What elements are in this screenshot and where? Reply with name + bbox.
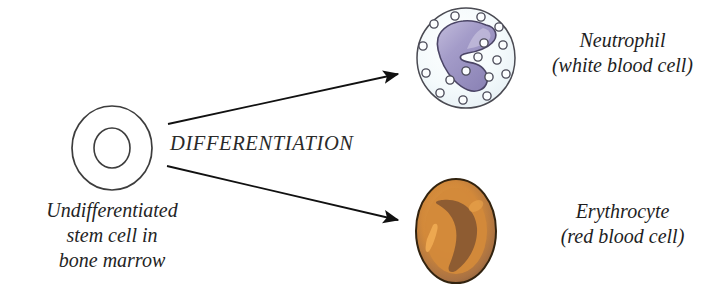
granule [477, 13, 485, 21]
granule [502, 70, 510, 78]
granule [462, 67, 470, 75]
stem-cell-nucleus [94, 128, 130, 168]
granule [499, 41, 507, 49]
granule [451, 12, 459, 20]
granule [485, 73, 493, 81]
neutrophil-label: Neutrophil (white blood cell) [520, 28, 725, 78]
granule [436, 89, 444, 97]
granule [474, 53, 482, 61]
granule [483, 92, 491, 100]
granule [446, 76, 454, 84]
granule [480, 39, 488, 47]
erythrocyte-label: Erythrocyte (red blood cell) [520, 199, 725, 249]
arrow-to-neutrophil [168, 74, 398, 124]
erythrocyte-subtitle: (red blood cell) [520, 224, 725, 249]
neutrophil-figure [417, 8, 515, 108]
neutrophil-subtitle: (white blood cell) [520, 53, 725, 78]
diagram-canvas: Undifferentiated stem cell in bone marro… [0, 0, 725, 299]
erythrocyte-figure [416, 179, 496, 283]
granule [422, 69, 430, 77]
stem-cell-caption-line-3: bone marrow [8, 248, 216, 273]
stem-cell-figure [72, 106, 152, 190]
stem-cell-caption: Undifferentiated stem cell in bone marro… [8, 198, 216, 274]
granule [495, 23, 503, 31]
granule [430, 20, 438, 28]
differentiation-label: DIFFERENTIATION [170, 131, 354, 157]
granule [459, 96, 467, 104]
stem-cell-caption-line-2: stem cell in [8, 223, 216, 248]
granule [419, 42, 427, 50]
granule [493, 56, 501, 64]
stem-cell-caption-line-1: Undifferentiated [8, 198, 216, 223]
neutrophil-name: Neutrophil [520, 28, 725, 53]
erythrocyte-name: Erythrocyte [520, 199, 725, 224]
